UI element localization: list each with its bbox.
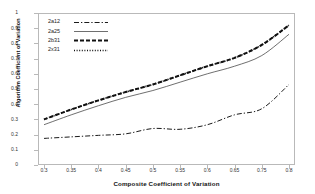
x-axis-title: Composite Coefficient of Variation: [38, 180, 295, 187]
legend-item-2b31: 2b31: [48, 37, 108, 45]
x-tick-mark: [180, 165, 181, 169]
x-tick-mark: [44, 165, 45, 169]
line-chart: 00.10.20.30.40.50.60.70.80.91 0.30.350.4…: [0, 0, 315, 194]
legend-swatch-dash-dot: [74, 19, 108, 26]
y-tick-mark: [34, 165, 38, 166]
x-tick-mark: [153, 165, 154, 169]
legend-swatch-dashed: [74, 37, 108, 44]
x-tick-mark: [71, 165, 72, 169]
legend-item-2a25: 2a25: [48, 27, 108, 35]
x-tick-mark: [126, 165, 127, 169]
x-tick-mark: [262, 165, 263, 169]
x-tick-mark: [98, 165, 99, 169]
legend-item-2x31: 2x31: [48, 46, 108, 54]
y-tick-label: 0: [0, 162, 18, 167]
y-tick-label: 0.1: [0, 147, 18, 152]
x-tick-mark: [207, 165, 208, 169]
chart-legend: 2a122a252b312x31: [48, 18, 108, 54]
legend-swatch-dotted: [74, 47, 108, 54]
legend-label: 2x31: [48, 47, 70, 52]
x-tick-mark: [289, 165, 290, 169]
legend-label: 2a12: [48, 19, 70, 24]
y-axis-title: Algorithm Coefficient of Variation: [15, 0, 21, 133]
legend-swatch-solid: [74, 28, 108, 35]
legend-item-2a12: 2a12: [48, 18, 108, 26]
legend-label: 2a25: [48, 29, 70, 34]
x-tick-mark: [235, 165, 236, 169]
legend-label: 2b31: [48, 38, 70, 43]
